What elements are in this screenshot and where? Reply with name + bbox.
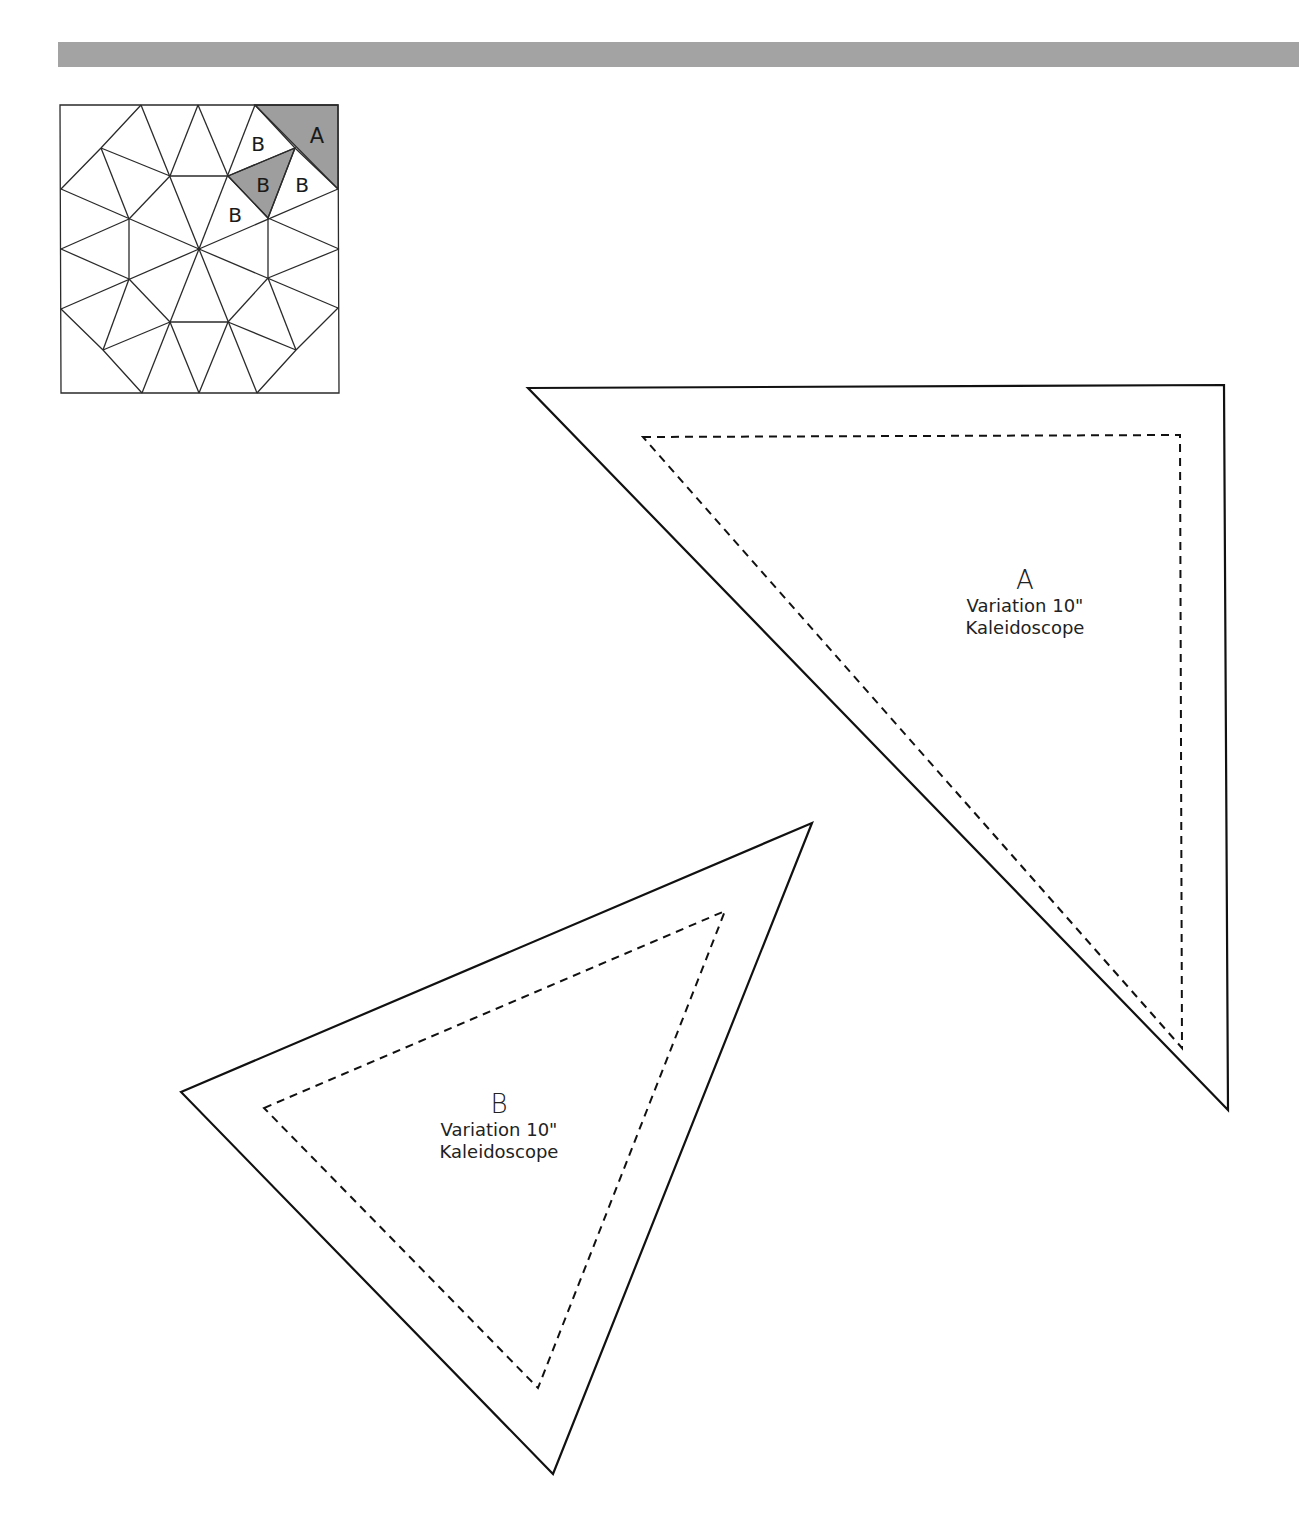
pattern-canvas: A B B B B <box>0 0 1299 1519</box>
block-diagram <box>60 105 339 393</box>
block-label-b-shaded: B <box>256 173 270 197</box>
template-a-seam-line <box>643 435 1182 1048</box>
template-a-cut-line <box>528 385 1228 1110</box>
template-a-size: Variation 10" <box>930 595 1120 618</box>
template-b-letter: B <box>404 1090 594 1119</box>
block-label-b3: B <box>228 203 242 227</box>
template-a-letter: A <box>930 566 1120 595</box>
template-a <box>528 385 1228 1110</box>
block-label-b1: B <box>251 132 265 156</box>
template-a-name: Kaleidoscope <box>930 617 1120 640</box>
template-b-size: Variation 10" <box>404 1119 594 1142</box>
template-b-label: B Variation 10" Kaleidoscope <box>404 1090 594 1164</box>
template-b-name: Kaleidoscope <box>404 1141 594 1164</box>
template-a-label: A Variation 10" Kaleidoscope <box>930 566 1120 640</box>
block-label-b2: B <box>295 173 309 197</box>
block-label-a: A <box>310 124 325 148</box>
